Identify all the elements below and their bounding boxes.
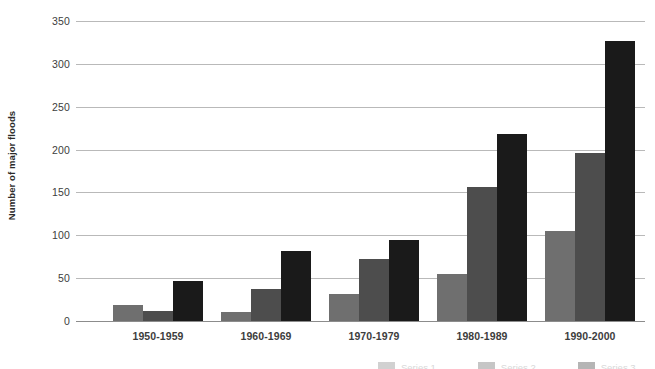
- y-tick-label-300: 300: [4, 58, 70, 70]
- legend-item[interactable]: Series 2: [478, 362, 536, 369]
- bar: [173, 281, 203, 321]
- bar-chart: Number of major floods 05010015020025030…: [0, 0, 655, 369]
- y-tick-label-250: 250: [4, 101, 70, 113]
- bar: [389, 240, 419, 321]
- legend-item[interactable]: Series 1: [378, 362, 436, 369]
- bar: [575, 153, 605, 321]
- chart-legend: Series 1Series 2Series 3: [378, 362, 655, 369]
- bar: [437, 274, 467, 321]
- y-tick-label-50: 50: [4, 272, 70, 284]
- y-tick-label-150: 150: [4, 186, 70, 198]
- y-tick-label-0: 0: [4, 315, 70, 327]
- gridline-0: [76, 321, 645, 322]
- category-label-0: 1950-1959: [98, 330, 218, 342]
- x-axis-category-labels: 1950-19591960-19691970-19791980-19891990…: [76, 330, 645, 350]
- y-tick-label-100: 100: [4, 229, 70, 241]
- bar: [113, 305, 143, 321]
- legend-label: Series 3: [601, 362, 636, 369]
- legend-swatch: [378, 362, 395, 369]
- y-tick-label-200: 200: [4, 144, 70, 156]
- category-label-1: 1960-1969: [206, 330, 326, 342]
- bar: [221, 312, 251, 321]
- bar: [497, 134, 527, 321]
- category-label-2: 1970-1979: [314, 330, 434, 342]
- plot-area: [76, 21, 645, 321]
- legend-swatch: [478, 362, 495, 369]
- bar: [251, 289, 281, 321]
- y-tick-label-350: 350: [4, 15, 70, 27]
- bar: [143, 311, 173, 321]
- bar: [467, 187, 497, 321]
- bar: [605, 41, 635, 321]
- category-label-3: 1980-1989: [422, 330, 542, 342]
- legend-item[interactable]: Series 3: [578, 362, 636, 369]
- bar: [545, 231, 575, 321]
- bar: [281, 251, 311, 321]
- legend-label: Series 1: [401, 362, 436, 369]
- bar: [359, 259, 389, 321]
- bar: [329, 294, 359, 321]
- y-axis-tick-labels: 050100150200250300350: [0, 0, 70, 342]
- legend-swatch: [578, 362, 595, 369]
- bars-layer: [76, 21, 645, 321]
- legend-label: Series 2: [501, 362, 536, 369]
- category-label-4: 1990-2000: [530, 330, 650, 342]
